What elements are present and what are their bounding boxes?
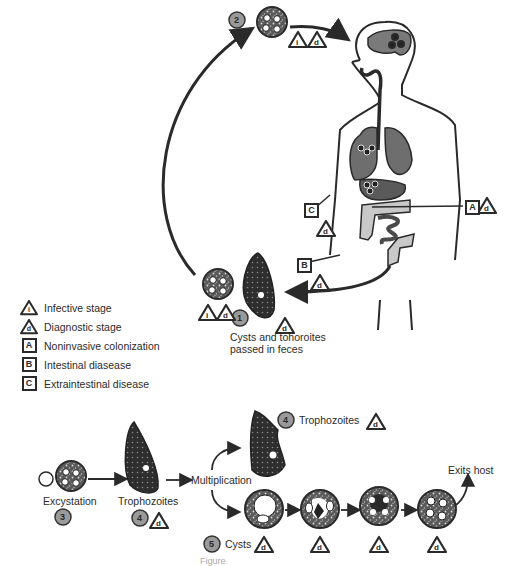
diagnostic-stage-icon: d (223, 310, 228, 322)
svg-text:i: i (28, 306, 30, 314)
box-C-icon: C (20, 376, 38, 392)
diagnostic-stage-icon: d (323, 226, 328, 238)
step-number-4: 4 (137, 512, 142, 524)
cysts-label: Cysts (225, 538, 251, 550)
diagnostic-stage-icon: d (317, 280, 322, 292)
cyst-stage-2 (301, 490, 339, 528)
diagnostic-stage-icon: d (373, 419, 378, 431)
legend-item-infective: i Infective stage (20, 298, 160, 317)
infective-stage-icon: i (296, 37, 298, 49)
legend-item-C: C Extraintestinal disease (20, 374, 160, 393)
box-B-icon: B (20, 357, 38, 373)
cyst-stage-1 (245, 490, 283, 528)
step-number-1: 1 (237, 312, 242, 324)
excystation-label: Excystation (43, 495, 97, 507)
trophozoites-label: Trophozoites (299, 414, 359, 426)
human-body-illustration (330, 22, 460, 330)
diagnostic-stage-icon: d (434, 542, 439, 554)
diagnostic-stage-icon: d (376, 542, 381, 554)
step-number-5: 5 (209, 538, 214, 550)
step-number-3: 3 (60, 511, 65, 523)
infective-stage-icon: i (20, 300, 38, 316)
diagnostic-stage-icon: d (20, 319, 38, 335)
step-number-2: 2 (234, 14, 239, 26)
diagnostic-stage-icon: d (484, 203, 489, 215)
infective-stage-icon: i (206, 310, 208, 322)
legend-item-B: B Intestinal diasease (20, 355, 160, 374)
marker-A: A (465, 200, 480, 215)
diagnostic-stage-icon: d (261, 542, 266, 554)
diagnostic-stage-icon: d (156, 518, 161, 530)
diagnostic-stage-icon: d (314, 37, 319, 49)
legend-item-diagnostic: d Diagnostic stage (20, 317, 160, 336)
cyst-stage-4 (418, 490, 456, 528)
trophozoites-label: Trophozoites (118, 495, 178, 507)
exits-host-label: Exits host (448, 464, 494, 476)
box-A-icon: A (20, 338, 38, 354)
step-number-4: 4 (283, 414, 288, 426)
legend: i Infective stage d Diagnostic stage A N… (20, 298, 160, 393)
marker-C: C (304, 203, 319, 218)
legend-item-A: A Noninvasive colonization (20, 336, 160, 355)
svg-text:d: d (27, 325, 31, 333)
step-1-label-line2: passed in feces (230, 343, 303, 355)
multiplication-label: Multiplication (191, 474, 252, 486)
figure-caption: Figure (200, 556, 226, 566)
marker-B: B (297, 258, 312, 273)
lungs (350, 127, 377, 180)
cyst-stage-3 (360, 487, 398, 525)
diagnostic-stage-icon: d (317, 542, 322, 554)
arrow-feces-to-ingestion (163, 30, 250, 275)
step-1-label-line1: Cysts and tohoroites (230, 331, 326, 343)
